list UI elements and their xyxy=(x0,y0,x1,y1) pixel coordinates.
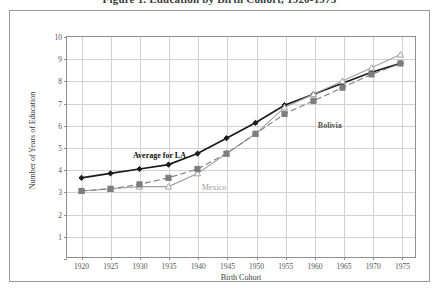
y-tick-label: 10 xyxy=(55,33,63,42)
y-tick-label: 9 xyxy=(58,55,62,64)
data-point-marker xyxy=(108,171,113,176)
x-tick-label: 1950 xyxy=(249,262,264,271)
figure-container: Figure 1. Education by Birth Cohort, 192… xyxy=(0,0,439,290)
x-tick-mark xyxy=(169,257,170,260)
x-tick-mark xyxy=(140,257,141,260)
data-point-marker xyxy=(398,61,403,66)
x-tick-label: 1955 xyxy=(278,262,293,271)
y-tick-label: 5 xyxy=(58,144,62,153)
y-tick-mark xyxy=(64,259,67,260)
x-tick-mark xyxy=(344,257,345,260)
x-tick-label: 1935 xyxy=(162,262,177,271)
y-tick-label: 3 xyxy=(58,188,62,197)
data-point-marker xyxy=(253,131,258,136)
x-tick-label: 1940 xyxy=(191,262,206,271)
series-mexico xyxy=(78,52,403,194)
x-tick-mark xyxy=(315,257,316,260)
x-tick-label: 1965 xyxy=(337,262,352,271)
y-tick-label: 1 xyxy=(58,232,62,241)
figure-title: Figure 1. Education by Birth Cohort, 192… xyxy=(0,0,439,5)
y-tick-label: 7 xyxy=(58,99,62,108)
series-label-la: Average for LA xyxy=(133,151,186,160)
x-tick-mark xyxy=(82,257,83,260)
series-line xyxy=(81,63,400,177)
x-tick-label: 1925 xyxy=(103,262,118,271)
data-point-marker xyxy=(108,186,113,191)
x-tick-mark xyxy=(111,257,112,260)
y-axis-label: Number of Years of Education xyxy=(28,56,37,226)
x-tick-mark xyxy=(373,257,374,260)
y-tick-label: 6 xyxy=(58,121,62,130)
data-point-marker xyxy=(224,151,229,156)
data-series-layer xyxy=(67,37,415,257)
data-point-marker xyxy=(282,111,287,116)
x-tick-label: 1930 xyxy=(132,262,147,271)
data-point-marker xyxy=(369,72,374,77)
data-point-marker xyxy=(79,175,84,180)
x-tick-mark xyxy=(286,257,287,260)
data-point-marker xyxy=(195,166,200,171)
x-axis-label: Birth Cohort xyxy=(66,273,416,282)
x-tick-label: 1945 xyxy=(220,262,235,271)
y-tick-label: 8 xyxy=(58,77,62,86)
x-tick-label: 1970 xyxy=(366,262,381,271)
data-point-marker xyxy=(137,166,142,171)
figure-frame: 12345678910 1920192519301935194019451950… xyxy=(9,10,430,282)
series-average-for-la xyxy=(79,61,403,181)
data-point-marker xyxy=(137,182,142,187)
series-line xyxy=(81,63,400,191)
data-point-marker xyxy=(340,85,345,90)
x-tick-mark xyxy=(402,257,403,260)
data-point-marker xyxy=(397,52,403,58)
data-point-marker xyxy=(79,188,84,193)
data-point-marker xyxy=(166,175,171,180)
x-tick-label: 1920 xyxy=(74,262,89,271)
plot-area: 12345678910 1920192519301935194019451950… xyxy=(66,36,416,258)
series-label-bolivia: Bolivia xyxy=(318,121,342,130)
y-tick-label: 2 xyxy=(58,210,62,219)
data-point-marker xyxy=(166,162,171,167)
x-tick-label: 1975 xyxy=(395,262,410,271)
data-point-marker xyxy=(368,65,374,71)
y-tick-label: 4 xyxy=(58,166,62,175)
data-point-marker xyxy=(339,78,345,84)
x-tick-label: 1960 xyxy=(307,262,322,271)
x-tick-mark xyxy=(227,257,228,260)
x-tick-mark xyxy=(257,257,258,260)
series-bolivia xyxy=(79,61,403,194)
data-point-marker xyxy=(311,98,316,103)
x-tick-mark xyxy=(198,257,199,260)
series-label-mexico: Mexico xyxy=(202,183,226,192)
